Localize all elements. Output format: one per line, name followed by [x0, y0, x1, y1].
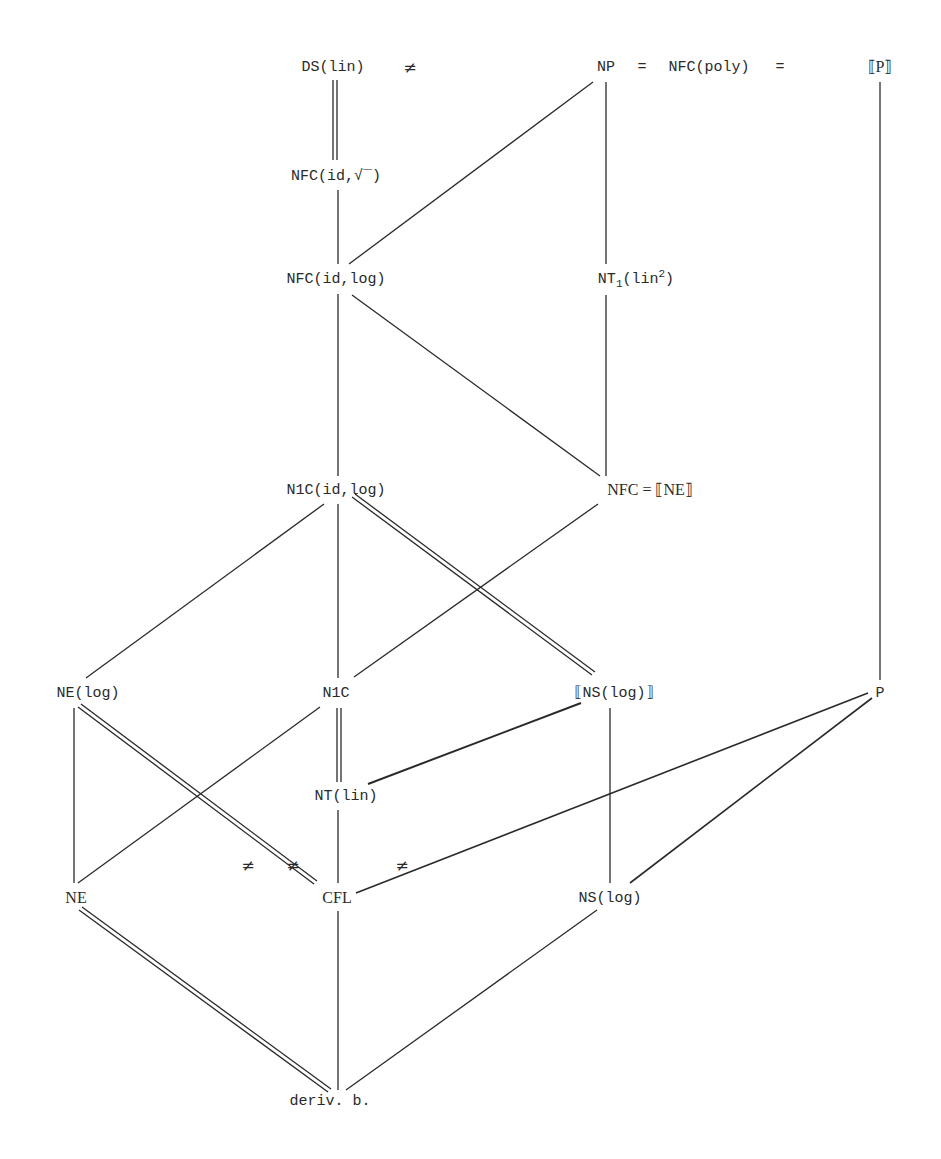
sqrt-symbol: √‾ — [354, 168, 372, 185]
edge-nfc-n1c — [354, 504, 598, 677]
edge-double-n1c-ntlin — [337, 708, 341, 782]
node-nt1-lin2: NT1(lin2) — [598, 269, 674, 290]
node-deriv-b: deriv. b. — [289, 1094, 370, 1109]
edge-layer — [0, 0, 941, 1159]
not-equal-symbol: ≠ — [395, 856, 408, 875]
edge-nslog-ntlin — [368, 703, 581, 784]
node-ds-lin: DS(lin) — [301, 60, 364, 75]
node-ne-log: NE(log) — [56, 686, 119, 701]
node-nfc-id-log: NFC(id,log) — [286, 272, 385, 287]
edge-n1cidlog-nelog — [86, 504, 324, 678]
node-bracket-p: ⟦P⟧ — [868, 59, 893, 75]
edge-nfclog-nfc — [352, 295, 600, 476]
edge-double-dslin-nfcsqrt — [333, 80, 337, 160]
edge-np-nfclog — [349, 82, 593, 264]
not-equal-symbol: ≠ — [286, 856, 299, 875]
complexity-class-inclusion-diagram: DS(lin) ≠ NP = NFC(poly) = ⟦P⟧ NFC(id,√‾… — [0, 0, 941, 1159]
edge-p-cfl — [356, 693, 868, 893]
node-ns-log: NS(log) — [578, 891, 641, 906]
node-cfl: CFL — [322, 890, 351, 906]
not-equal-symbol: ≠ — [403, 58, 416, 77]
not-equal-symbol: ≠ — [241, 856, 254, 875]
node-np: NP — [597, 60, 615, 75]
node-n1c-id-log: N1C(id,log) — [286, 483, 385, 498]
node-bracket-ns-log: ⟦NS(log)⟧ — [573, 686, 654, 701]
equals-symbol: = — [637, 60, 646, 75]
node-nfc-eq-ne: NFC = ⟦NE⟧ — [607, 482, 692, 498]
node-nfc-poly: NFC(poly) — [668, 60, 749, 75]
node-p: P — [875, 686, 884, 701]
edge-p-nslog — [630, 698, 872, 883]
edge-double-n1cidlog-nslog — [352, 494, 595, 675]
node-ne: NE — [65, 890, 86, 906]
edge-double-ne-derivb — [79, 907, 331, 1092]
node-nfc-id-sqrt: NFC(id,√‾) — [291, 169, 381, 184]
equals-symbol: = — [775, 60, 784, 75]
node-nt-lin: NT(lin) — [314, 789, 377, 804]
node-n1c: N1C — [322, 686, 349, 701]
edge-nslog-derivb — [346, 910, 597, 1090]
